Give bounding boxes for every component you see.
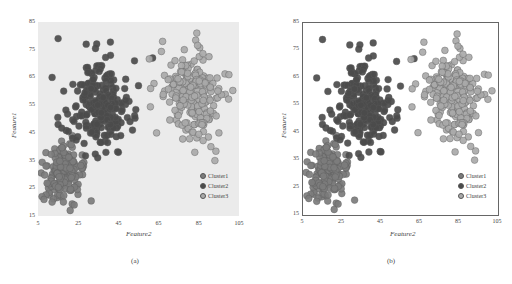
y-tick-label: 35: [285, 155, 299, 161]
y-tick-label: 55: [285, 100, 299, 106]
x-tick-label: 105: [487, 218, 507, 224]
y-tick-label: 85: [285, 18, 299, 24]
x-tick-label: 5: [292, 218, 312, 224]
y-tick-label: 85: [21, 18, 35, 24]
cluster2-marker-icon: [458, 183, 464, 189]
legend-item-cluster2: Cluster2: [200, 181, 228, 191]
cluster1-marker-icon: [200, 173, 206, 179]
x-tick-label: 45: [108, 220, 128, 226]
x-tick-label: 65: [409, 218, 429, 224]
x-tick-label: 25: [331, 218, 351, 224]
x-tick-label: 65: [149, 220, 169, 226]
caption-a: (a): [115, 257, 155, 265]
legend-item-cluster3: Cluster3: [200, 191, 228, 201]
x-tick-label: 105: [229, 220, 249, 226]
y-tick-label: 35: [21, 157, 35, 163]
panel-a: 1525354555657585 525456585105 Feature1 F…: [0, 0, 256, 284]
x-axis-label-b: Feature2: [390, 230, 415, 238]
y-tick-label: 75: [285, 45, 299, 51]
y-tick-label: 15: [21, 212, 35, 218]
legend-item-cluster1: Cluster1: [458, 171, 486, 181]
legend-item-cluster2: Cluster2: [458, 181, 486, 191]
y-tick-label: 25: [21, 184, 35, 190]
caption-b: (b): [371, 257, 411, 265]
y-axis-label-b: Feature1: [280, 113, 288, 138]
cluster3-marker-icon: [458, 193, 464, 199]
y-axis-label-a: Feature1: [10, 113, 18, 138]
y-tick-label: 55: [21, 101, 35, 107]
x-tick-label: 5: [28, 220, 48, 226]
legend-item-cluster1: Cluster1: [200, 171, 228, 181]
panel-b: 1525354555657585 525456585105 Feature1 F…: [256, 0, 512, 284]
y-tick-label: 15: [285, 210, 299, 216]
cluster2-marker-icon: [200, 183, 206, 189]
y-tick-label: 65: [21, 73, 35, 79]
y-tick-label: 25: [285, 183, 299, 189]
x-axis-label-a: Feature2: [126, 230, 151, 238]
legend-a: Cluster1 Cluster2 Cluster3: [200, 171, 228, 201]
y-tick-label: 65: [285, 73, 299, 79]
x-tick-label: 85: [189, 220, 209, 226]
cluster1-marker-icon: [458, 173, 464, 179]
legend-b: Cluster1 Cluster2 Cluster3: [458, 171, 486, 201]
x-tick-label: 45: [370, 218, 390, 224]
y-tick-label: 45: [21, 129, 35, 135]
x-tick-label: 85: [448, 218, 468, 224]
legend-item-cluster3: Cluster3: [458, 191, 486, 201]
x-tick-label: 25: [68, 220, 88, 226]
cluster3-marker-icon: [200, 193, 206, 199]
y-tick-label: 75: [21, 46, 35, 52]
